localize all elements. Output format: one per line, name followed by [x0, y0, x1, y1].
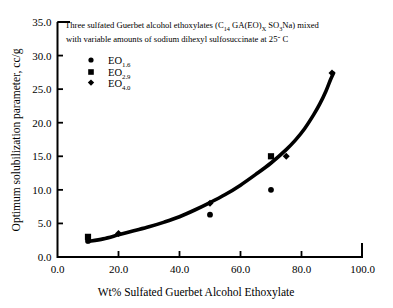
- legend-eo-sub-1: 1.6: [122, 61, 131, 68]
- x-tick-label-5: 100.0: [350, 263, 375, 275]
- chart-background: [0, 0, 393, 308]
- y-tick-label-2: 10.0: [32, 184, 52, 196]
- x-tick-label-1: 20.0: [109, 263, 129, 275]
- annotation-line-1: Three sulfated Guerbet alcohol ethoxylat…: [65, 20, 320, 32]
- legend-eo-sub-2: 2.9: [122, 73, 131, 80]
- x-tick-label-2: 40.0: [170, 263, 190, 275]
- data-point-circle-0-1: [207, 212, 213, 218]
- annotation-seg-c: SO: [266, 20, 279, 30]
- x-tick-label-4: 80.0: [292, 263, 312, 275]
- annotation-line-2: with variable amounts of sodium dihexyl …: [66, 34, 288, 44]
- x-tick-label-0: 0.0: [51, 263, 65, 275]
- y-tick-label-3: 15.0: [32, 150, 52, 162]
- data-point-square-1-1: [268, 153, 274, 159]
- y-tick-label-0: 0.0: [38, 251, 52, 263]
- y-tick-label-1: 5.0: [38, 217, 52, 229]
- legend-eo-text-1: EO: [108, 55, 122, 66]
- y-tick-label-4: 20.0: [32, 117, 52, 129]
- legend-marker-square-icon: [88, 69, 94, 75]
- legend-marker-circle-icon: [88, 57, 93, 62]
- legend-eo-sub-3: 4.0: [122, 84, 131, 91]
- y-tick-label-7: 35.0: [32, 16, 52, 28]
- y-axis-title: Optimum solubilization parameter, cc/g: [10, 48, 23, 231]
- legend-eo-text-3: EO: [108, 78, 122, 89]
- data-point-circle-0-2: [268, 187, 274, 193]
- annotation-seg-a: Three sulfated Guerbet alcohol ethoxylat…: [65, 20, 224, 30]
- annotation-seg-d: Na) mixed: [282, 20, 319, 30]
- legend-eo-text-2: EO: [108, 67, 122, 78]
- chart-figure: 0.05.010.015.020.025.030.035.0 0.020.040…: [0, 0, 393, 308]
- data-point-square-1-0: [85, 234, 91, 240]
- x-tick-label-3: 60.0: [231, 263, 251, 275]
- y-tick-label-5: 25.0: [32, 83, 52, 95]
- y-tick-label-6: 30.0: [32, 50, 52, 62]
- x-axis-title: Wt% Sulfated Guerbet Alcohol Ethoxylate: [98, 286, 295, 299]
- scatter-plot-svg: 0.05.010.015.020.025.030.035.0 0.020.040…: [0, 0, 393, 308]
- annotation-seg-b: GA(EO): [230, 20, 262, 30]
